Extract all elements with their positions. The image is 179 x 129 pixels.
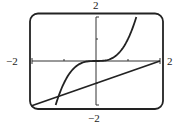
xmax-label: 2 <box>167 56 173 67</box>
xmin-label: −2 <box>6 56 18 67</box>
ymax-label: 2 <box>93 0 99 11</box>
plot-svg <box>0 0 179 129</box>
graph-display: 2 −2 −2 2 <box>0 0 179 129</box>
ymin-label: −2 <box>88 113 100 124</box>
